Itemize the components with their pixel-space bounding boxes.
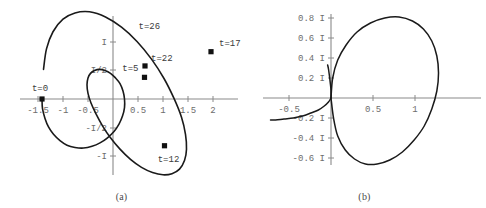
panel-a-y-ticklabels: -I -I/2 I/2 I	[85, 38, 107, 162]
cardioid-main-loop	[331, 17, 439, 165]
y-ticklabel: -0.6 I	[293, 154, 325, 164]
panel-b-plot: -0.5 0.5 1 -0.6 I -0.4 I -0.2 I 0.2 I 0.…	[243, 0, 486, 208]
x-ticklabel: 1.5	[180, 106, 196, 116]
spiral-point-label: t=17	[219, 39, 241, 49]
y-ticklabel: 0.8 I	[298, 14, 325, 24]
x-ticklabel: 2	[210, 106, 215, 116]
panel-b: -0.5 0.5 1 -0.6 I -0.4 I -0.2 I 0.2 I 0.…	[243, 0, 486, 208]
figure-container: -1.5 -1 -0.5 0.5 1 1.5 2 -I -I/2 I/2 I	[0, 0, 486, 208]
spiral-curve	[42, 12, 187, 175]
spiral-marker	[39, 96, 44, 101]
spiral-marker	[142, 63, 147, 68]
y-ticklabel: 0.4 I	[298, 54, 325, 64]
spiral-point-label: t=22	[151, 54, 173, 64]
spiral-marker	[142, 75, 147, 80]
x-ticklabel: -1.5	[27, 106, 49, 116]
spiral-marker	[208, 49, 213, 54]
spiral-point-label: t=26	[139, 22, 161, 32]
panel-b-caption: (b)	[243, 191, 486, 202]
spiral-marker	[162, 143, 167, 148]
y-ticklabel: I	[102, 38, 107, 48]
x-ticklabel: 1	[160, 106, 165, 116]
y-ticklabel: -0.2 I	[293, 114, 325, 124]
y-ticklabel: 0.2 I	[298, 74, 325, 84]
y-ticklabel: 0.6 I	[298, 34, 325, 44]
panel-a-axes	[20, 16, 238, 175]
x-ticklabel: 0.5	[130, 106, 146, 116]
y-ticklabel: -0.4 I	[293, 134, 325, 144]
spiral-point-label: t=0	[32, 84, 48, 94]
spiral-point-label: t=5	[122, 64, 138, 74]
panel-a: -1.5 -1 -0.5 0.5 1 1.5 2 -I -I/2 I/2 I	[0, 0, 243, 208]
spiral-point-label: t=12	[158, 155, 180, 165]
panel-b-y-ticklabels: -0.6 I -0.4 I -0.2 I 0.2 I 0.4 I 0.6 I 0…	[293, 14, 325, 164]
x-ticklabel: 1	[412, 105, 417, 115]
x-ticklabel: -1	[58, 106, 69, 116]
y-ticklabel: -I	[96, 152, 107, 162]
panel-a-x-ticklabels: -1.5 -1 -0.5 0.5 1 1.5 2	[27, 106, 216, 116]
panel-a-plot: -1.5 -1 -0.5 0.5 1 1.5 2 -I -I/2 I/2 I	[0, 0, 243, 208]
panel-a-caption: (a)	[0, 191, 243, 202]
x-ticklabel: 0.5	[365, 105, 381, 115]
